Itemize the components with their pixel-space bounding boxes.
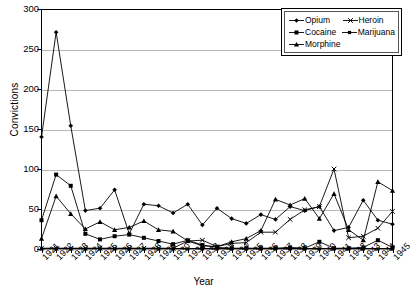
- data-point: [332, 228, 337, 233]
- series-line: [42, 32, 393, 234]
- data-point: [156, 227, 161, 232]
- data-point: [201, 247, 204, 250]
- data-point: [97, 219, 102, 224]
- data-point: [156, 204, 161, 209]
- data-point: [113, 247, 116, 250]
- data-point: [127, 233, 131, 237]
- data-point: [347, 247, 350, 250]
- data-point: [390, 209, 395, 214]
- data-point: [362, 247, 365, 250]
- data-point: [332, 247, 335, 250]
- data-point: [259, 247, 262, 250]
- legend-row: Morphine: [288, 38, 395, 50]
- data-point: [128, 247, 131, 250]
- data-point: [141, 218, 146, 223]
- data-point: [55, 247, 58, 250]
- diamond-marker-icon: [288, 15, 305, 26]
- data-point: [376, 226, 381, 231]
- data-point: [40, 218, 44, 222]
- data-point: [54, 173, 58, 177]
- legend-item-label: Opium: [305, 16, 330, 25]
- y-axis-tick-label: 200: [11, 84, 39, 93]
- legend-inner: OpiumHeroinCocaineMarijuanaMorphine: [284, 11, 399, 53]
- legend-item-label: Heroin: [359, 16, 384, 25]
- data-point: [69, 247, 72, 250]
- y-axis-tick-label: 150: [11, 124, 39, 133]
- data-point: [68, 124, 73, 129]
- data-point: [40, 247, 43, 250]
- legend-item-heroin[interactable]: Heroin: [342, 14, 396, 26]
- data-point: [274, 247, 277, 250]
- data-point: [375, 179, 380, 184]
- data-point: [245, 247, 248, 250]
- data-point: [317, 240, 321, 244]
- triangle-marker-icon: [288, 39, 305, 50]
- data-point: [391, 247, 394, 250]
- legend-item-opium[interactable]: Opium: [288, 14, 342, 26]
- cross-marker-icon: [342, 15, 359, 26]
- data-point: [186, 247, 189, 250]
- legend-row: CocaineMarijuana: [288, 26, 395, 38]
- legend-item-empty: [342, 38, 396, 50]
- y-axis-tick-label: 250: [11, 44, 39, 53]
- data-point: [157, 247, 160, 250]
- y-axis-tick-label: 100: [11, 164, 39, 173]
- data-point: [273, 197, 278, 202]
- data-point: [157, 239, 161, 243]
- data-point: [98, 237, 102, 241]
- data-point: [171, 242, 175, 246]
- data-point: [303, 247, 306, 250]
- data-point: [142, 247, 145, 250]
- legend-item-label: Cocaine: [305, 28, 336, 37]
- data-point: [98, 247, 101, 250]
- data-point: [244, 236, 249, 241]
- data-point: [54, 30, 59, 35]
- data-point: [39, 236, 44, 241]
- data-point: [259, 212, 264, 217]
- y-axis-tick-label: 0: [11, 244, 39, 253]
- data-point: [39, 135, 44, 140]
- data-point: [288, 217, 293, 222]
- y-axis-tick-label: 50: [11, 204, 39, 213]
- chart-legend: OpiumHeroinCocaineMarijuanaMorphine: [281, 8, 402, 56]
- data-point: [289, 247, 292, 250]
- series-line: [42, 175, 393, 249]
- data-point: [215, 247, 218, 250]
- data-point: [69, 184, 73, 188]
- data-point: [390, 188, 395, 193]
- legend-row: OpiumHeroin: [288, 14, 395, 26]
- data-point: [230, 247, 233, 250]
- data-point: [331, 191, 336, 196]
- data-point: [376, 247, 379, 250]
- data-point: [302, 196, 307, 201]
- legend-item-morphine[interactable]: Morphine: [288, 38, 342, 50]
- legend-item-label: Marijuana: [358, 28, 395, 37]
- data-point: [84, 247, 87, 250]
- series-morphine: [39, 179, 395, 248]
- y-axis-title: Convictions: [9, 60, 20, 160]
- data-point: [376, 238, 380, 242]
- data-point: [113, 234, 117, 238]
- data-point: [83, 208, 88, 213]
- data-point: [390, 222, 395, 227]
- data-point: [172, 247, 175, 250]
- data-point: [83, 232, 87, 236]
- data-point: [171, 211, 176, 216]
- small-square-marker-icon: [341, 27, 358, 38]
- x-axis-title: Year: [0, 276, 407, 287]
- data-point: [142, 202, 147, 207]
- data-point: [244, 221, 249, 226]
- square-marker-icon: [288, 27, 305, 38]
- data-point: [54, 194, 59, 199]
- legend-item-marijuana[interactable]: Marijuana: [341, 26, 395, 38]
- data-point: [318, 247, 321, 250]
- data-point: [142, 236, 146, 240]
- y-axis-tick-label: 300: [11, 4, 39, 13]
- legend-item-label: Morphine: [305, 40, 340, 49]
- legend-item-cocaine[interactable]: Cocaine: [288, 26, 341, 38]
